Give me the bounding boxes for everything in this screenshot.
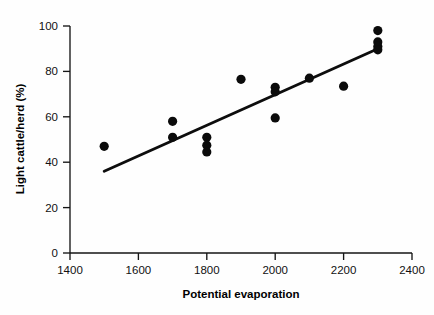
data-point xyxy=(271,87,280,96)
x-tick-label-1600: 1600 xyxy=(126,264,152,276)
data-point xyxy=(373,45,382,54)
x-axis-title: Potential evaporation xyxy=(183,288,300,300)
y-axis-title: Light cattle/herd (%) xyxy=(14,84,26,195)
y-tick-label-60: 60 xyxy=(45,111,58,123)
data-point xyxy=(100,142,109,151)
x-tick-label-2000: 2000 xyxy=(262,264,288,276)
data-point xyxy=(339,82,348,91)
y-tick-label-80: 80 xyxy=(45,65,58,77)
data-point xyxy=(305,74,314,83)
data-point xyxy=(202,133,211,142)
y-tick-label-20: 20 xyxy=(45,202,58,214)
scatter-plot: 0 20 40 60 80 100 1400 1600 1800 2000 22… xyxy=(0,0,434,315)
data-point xyxy=(202,147,211,156)
x-tick-label-1400: 1400 xyxy=(57,264,83,276)
x-tick-label-2200: 2200 xyxy=(331,264,357,276)
y-tick-label-100: 100 xyxy=(39,20,58,32)
data-point xyxy=(168,117,177,126)
x-tick-label-1800: 1800 xyxy=(194,264,220,276)
data-point xyxy=(236,75,245,84)
y-tick-label-40: 40 xyxy=(45,156,58,168)
x-tick-label-2400: 2400 xyxy=(399,264,425,276)
data-point xyxy=(271,113,280,122)
data-point xyxy=(373,26,382,35)
y-tick-label-0: 0 xyxy=(52,247,58,259)
chart-figure: 0 20 40 60 80 100 1400 1600 1800 2000 22… xyxy=(0,0,434,315)
data-point xyxy=(168,133,177,142)
